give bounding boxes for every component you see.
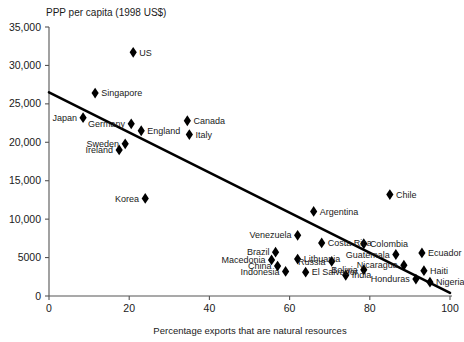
- data-marker-haiti: [420, 265, 427, 276]
- data-marker-venezuela: [294, 230, 301, 241]
- data-label-canada: Canada: [193, 116, 225, 126]
- data-marker-brazil: [272, 247, 279, 258]
- data-marker-germany: [128, 118, 135, 129]
- data-marker-el-salvador: [302, 267, 309, 278]
- data-marker-sweden: [122, 138, 129, 149]
- x-tick-label: 60: [284, 302, 296, 314]
- y-tick-label: 30,000: [9, 59, 41, 71]
- y-axis-tick-labels: 0500010,00015,00020,00025,00030,00035,00…: [9, 21, 41, 302]
- data-marker-italy: [186, 129, 193, 140]
- data-label-korea: Korea: [115, 194, 139, 204]
- scatter-chart: 0500010,00015,00020,00025,00030,00035,00…: [0, 0, 464, 342]
- data-label-indonesia: Indonesia: [240, 267, 279, 277]
- y-tick-label: 0: [35, 290, 41, 302]
- data-marker-guatemala: [392, 249, 399, 260]
- data-point-labels: USSingaporeJapanGermanyCanadaEnglandItal…: [52, 48, 464, 288]
- x-tick-label: 80: [364, 302, 376, 314]
- data-label-germany: Germany: [88, 119, 126, 129]
- data-label-japan: Japan: [52, 113, 77, 123]
- data-label-england: England: [147, 126, 180, 136]
- data-marker-indonesia: [282, 266, 289, 277]
- data-label-italy: Italy: [195, 130, 212, 140]
- data-marker-us: [130, 47, 137, 58]
- data-marker-argentina: [310, 206, 317, 217]
- data-marker-singapore: [92, 88, 99, 99]
- data-marker-korea: [142, 193, 149, 204]
- y-tick-label: 5000: [18, 251, 42, 263]
- data-label-nigeria: Nigeria: [436, 277, 464, 287]
- data-marker-canada: [184, 115, 191, 126]
- data-label-haiti: Haiti: [430, 266, 448, 276]
- data-marker-chile: [386, 189, 393, 200]
- x-tick-label: 0: [46, 302, 52, 314]
- data-label-colombia: Colombia: [370, 239, 408, 249]
- chart-title: PPP per capita (1998 US$): [46, 7, 166, 18]
- data-label-honduras: Honduras: [371, 274, 411, 284]
- data-marker-england: [138, 125, 145, 136]
- y-tick-label: 15,000: [9, 174, 41, 186]
- x-axis-title: Percentage exports that are natural reso…: [153, 325, 347, 336]
- data-label-russia: Russia: [298, 257, 326, 267]
- x-tick-label: 40: [204, 302, 216, 314]
- y-tick-label: 35,000: [9, 21, 41, 33]
- data-label-argentina: Argentina: [320, 207, 359, 217]
- data-label-venezuela: Venezuela: [249, 230, 291, 240]
- x-axis-tick-labels: 020406080100: [46, 302, 459, 314]
- y-tick-label: 25,000: [9, 97, 41, 109]
- y-tick-label: 10,000: [9, 213, 41, 225]
- data-label-ecuador: Ecuador: [428, 248, 462, 258]
- data-label-ireland: Ireland: [86, 145, 114, 155]
- x-tick-label: 20: [123, 302, 135, 314]
- data-marker-japan: [79, 112, 86, 123]
- plot-canvas: 0500010,00015,00020,00025,00030,00035,00…: [0, 0, 464, 342]
- data-label-us: US: [139, 48, 152, 58]
- data-marker-nigeria: [426, 277, 433, 288]
- y-tick-label: 20,000: [9, 136, 41, 148]
- x-tick-label: 100: [441, 302, 459, 314]
- data-label-india: India: [352, 270, 372, 280]
- data-marker-costa-rica: [318, 238, 325, 249]
- data-marker-ecuador: [418, 248, 425, 259]
- data-label-costa-rica: Costa Rica: [328, 238, 372, 248]
- data-label-guatemala: Guatemala: [346, 250, 390, 260]
- data-label-nicaragua: Nicaragua: [357, 260, 398, 270]
- data-label-chile: Chile: [396, 190, 417, 200]
- data-label-singapore: Singapore: [101, 88, 142, 98]
